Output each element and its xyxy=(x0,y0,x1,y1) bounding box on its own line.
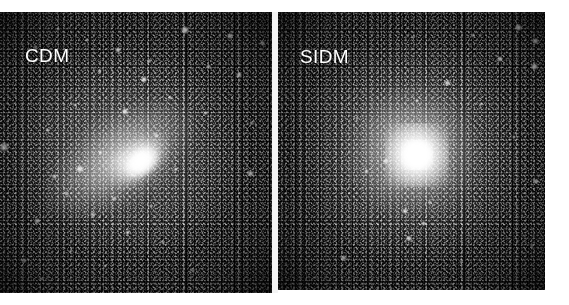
simulation-figure: CDM SIDM xyxy=(0,0,569,305)
sidm-subhalo xyxy=(402,208,408,214)
cdm-subhalo xyxy=(52,174,57,179)
sidm-subhalo xyxy=(340,255,347,262)
sidm-subhalo xyxy=(533,179,539,185)
cdm-subhalo xyxy=(64,191,69,196)
cdm-subhalo xyxy=(206,64,211,69)
sidm-subhalo xyxy=(471,33,475,37)
sidm-subhalo xyxy=(383,158,389,164)
cdm-subhalo xyxy=(112,196,117,201)
sidm-subhalo xyxy=(355,116,359,120)
cdm-subhalo xyxy=(34,218,40,224)
cdm-subhalo xyxy=(0,142,9,152)
cdm-subhalo xyxy=(247,170,254,177)
cdm-subhalo xyxy=(97,69,102,74)
sidm-subhalo xyxy=(411,35,415,39)
cdm-subhalo xyxy=(203,111,208,116)
cdm-subhalo xyxy=(90,212,95,217)
sidm-subhalo xyxy=(530,243,534,247)
sidm-subhalo xyxy=(531,63,538,70)
sidm-subhalo xyxy=(406,235,412,241)
cdm-subhalo xyxy=(161,240,165,244)
cdm-subhalo xyxy=(73,103,77,107)
cdm-subhalo xyxy=(173,167,177,171)
cdm-subhalo xyxy=(69,249,73,253)
sidm-subhalo xyxy=(515,24,522,31)
cdm-subhalo xyxy=(260,40,265,45)
cdm-subhalo xyxy=(191,268,195,272)
panel-label-cdm: CDM xyxy=(25,46,69,65)
cdm-subhalo xyxy=(98,150,102,154)
sidm-subhalo xyxy=(479,102,483,106)
cdm-subhalo xyxy=(141,76,147,82)
cdm-subhalo xyxy=(154,133,159,138)
sidm-subhalo xyxy=(497,56,503,62)
cdm-subhalo xyxy=(115,47,121,53)
cdm-subhalo xyxy=(227,33,233,39)
panel-label-sidm: SIDM xyxy=(300,47,349,66)
cdm-subhalo xyxy=(181,26,189,34)
cdm-subhalo xyxy=(249,121,253,125)
sidm-subhalo xyxy=(444,80,450,86)
